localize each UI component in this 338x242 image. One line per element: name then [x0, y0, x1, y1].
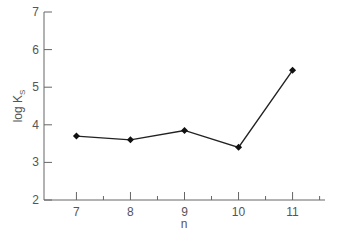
line-chart: 234567 log KS 7891011 n	[0, 0, 338, 242]
x-axis-label: n	[181, 217, 188, 231]
x-tick-label: 11	[286, 205, 299, 219]
x-tick-label: 8	[127, 205, 134, 219]
y-axis-label-subscript: S	[18, 90, 27, 95]
y-tick-label: 5	[32, 80, 39, 94]
diamond-marker	[181, 127, 188, 134]
diamond-marker	[73, 133, 80, 140]
plot-area	[73, 67, 296, 151]
series-line	[76, 70, 292, 147]
x-tick-label: 10	[232, 205, 246, 219]
y-tick-label: 4	[32, 118, 39, 132]
y-axis-label: log KS	[11, 90, 27, 123]
y-tick-label: 3	[32, 155, 39, 169]
y-axis: 234567 log KS	[11, 5, 52, 207]
y-tick-label: 6	[32, 43, 39, 57]
y-tick-label: 7	[32, 5, 39, 19]
y-tick-label: 2	[32, 193, 39, 207]
x-axis: 7891011 n	[44, 192, 325, 231]
diamond-marker	[127, 136, 134, 143]
y-axis-label-main: log K	[11, 95, 25, 122]
x-tick-label: 7	[73, 205, 80, 219]
